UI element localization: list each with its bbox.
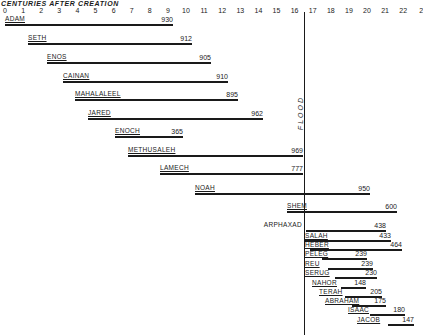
x-tick: 6 <box>112 7 116 14</box>
patriarch-name: REU <box>305 260 320 267</box>
lifespan-bar <box>195 193 370 195</box>
chart-title: CENTURIES AFTER CREATION <box>1 0 119 7</box>
lifespan-bar <box>63 81 228 83</box>
x-tick: 19 <box>345 7 353 14</box>
patriarch-name: ENOCH <box>115 127 140 134</box>
lifespan-value: 910 <box>216 73 228 80</box>
patriarch-name: METHUSALEH <box>128 146 175 153</box>
patriarch-name: JACOB <box>357 316 380 323</box>
x-tick: 17 <box>309 7 317 14</box>
patriarch-name: SERUG <box>305 269 330 276</box>
patriarch-name: HEBER <box>305 241 329 248</box>
x-tick: 18 <box>327 7 335 14</box>
lifespan-value: 969 <box>291 147 303 154</box>
lifespan-bar <box>75 99 238 101</box>
lifespan-bar <box>128 155 303 157</box>
lifespan-value: 148 <box>354 279 366 286</box>
x-tick: 21 <box>381 7 389 14</box>
patriarch-name: ABRAHAM <box>325 297 359 304</box>
lifespan-value: 230 <box>365 269 377 276</box>
patriarch-name: ENOS <box>47 53 67 60</box>
patriarch-name: CAINAN <box>63 72 89 79</box>
lifespan-value: 365 <box>171 128 183 135</box>
lifespan-bar <box>5 24 173 26</box>
lifespan-bar <box>160 173 303 175</box>
lifespan-bar <box>388 324 414 326</box>
lifespan-value: 438 <box>374 222 386 229</box>
x-tick: 1 <box>21 7 25 14</box>
lifespan-value: 147 <box>402 316 414 323</box>
x-tick: 2 <box>39 7 43 14</box>
x-tick: 12 <box>218 7 226 14</box>
lifespan-value: 930 <box>161 16 173 23</box>
x-tick: 5 <box>94 7 98 14</box>
x-tick: 16 <box>291 7 299 14</box>
lifespan-value: 905 <box>199 54 211 61</box>
x-tick: 13 <box>236 7 244 14</box>
lifespan-value: 464 <box>390 241 402 248</box>
patriarch-name: LAMECH <box>160 164 189 171</box>
lifespan-value: 433 <box>379 232 391 239</box>
lifespan-value: 239 <box>355 250 367 257</box>
patriarch-name: JARED <box>88 109 111 116</box>
x-tick: 2 <box>419 7 423 14</box>
x-tick: 10 <box>182 7 190 14</box>
lifespan-value: 239 <box>361 260 373 267</box>
patriarch-name: SETH <box>28 34 47 41</box>
lifespan-bar <box>115 136 183 138</box>
flood-label: FLOOD <box>297 96 304 130</box>
patriarch-lifespan-chart: CENTURIES AFTER CREATION 012345678910111… <box>0 0 423 335</box>
lifespan-value: 912 <box>180 35 192 42</box>
lifespan-value: 175 <box>374 297 386 304</box>
x-tick: 22 <box>399 7 407 14</box>
patriarch-name: NOAH <box>195 184 215 191</box>
x-tick: 11 <box>200 7 207 14</box>
patriarch-name: SALAH <box>305 232 328 239</box>
x-tick: 8 <box>148 7 152 14</box>
patriarch-name: MAHALALEEL <box>75 90 121 97</box>
x-tick: 9 <box>166 7 170 14</box>
lifespan-value: 962 <box>251 110 263 117</box>
lifespan-value: 180 <box>393 306 405 313</box>
lifespan-value: 205 <box>370 288 382 295</box>
patriarch-name: ARPHAXAD <box>264 221 302 228</box>
patriarch-name: ISAAC <box>348 306 369 313</box>
x-tick: 15 <box>273 7 281 14</box>
x-tick: 7 <box>130 7 134 14</box>
lifespan-value: 777 <box>291 165 303 172</box>
patriarch-name: ADAM <box>5 15 25 22</box>
lifespan-value: 895 <box>226 91 238 98</box>
lifespan-value: 600 <box>385 203 397 210</box>
lifespan-value: 950 <box>358 185 370 192</box>
x-tick: 0 <box>3 7 7 14</box>
x-tick: 20 <box>363 7 371 14</box>
x-tick: 3 <box>57 7 61 14</box>
patriarch-name: NAHOR <box>312 279 337 286</box>
lifespan-bar <box>47 62 211 64</box>
x-tick: 4 <box>75 7 79 14</box>
patriarch-name: TERAH <box>319 288 343 295</box>
x-tick: 14 <box>254 7 262 14</box>
patriarch-name: PELEG <box>305 250 328 257</box>
lifespan-bar <box>28 43 192 45</box>
lifespan-bar <box>322 258 367 260</box>
lifespan-bar <box>341 287 366 289</box>
flood-line <box>304 12 305 335</box>
lifespan-bar <box>88 118 263 120</box>
